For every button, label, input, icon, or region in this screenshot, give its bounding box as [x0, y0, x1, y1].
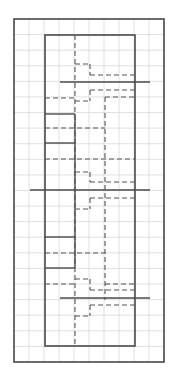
floor-plan-diagram	[0, 0, 175, 379]
solid-walls	[30, 82, 150, 298]
